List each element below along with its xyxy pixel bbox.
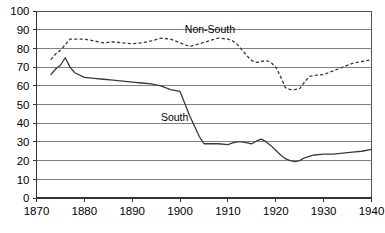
- x-tick-label-1900: 1900: [167, 205, 193, 217]
- y-tick-label-100: 100: [10, 5, 29, 17]
- y-tick-label-40: 40: [17, 117, 30, 129]
- y-tick-label-80: 80: [17, 43, 30, 55]
- y-tick-label-70: 70: [17, 61, 30, 73]
- annotation-non-south: Non-South: [185, 23, 235, 35]
- y-tick-label-10: 10: [17, 174, 30, 186]
- x-tick-label-1890: 1890: [119, 205, 145, 217]
- annotation-south: South: [161, 111, 189, 123]
- x-tick-label-1920: 1920: [263, 205, 289, 217]
- data-series: [51, 38, 372, 161]
- y-tick-label-50: 50: [17, 99, 30, 111]
- x-axis-tick-labels: 18701880189019001910192019301940: [24, 198, 385, 217]
- y-tick-label-90: 90: [17, 24, 30, 36]
- x-tick-label-1940: 1940: [359, 205, 385, 217]
- chart-container: 0102030405060708090100 18701880189019001…: [0, 0, 385, 233]
- y-tick-label-20: 20: [17, 155, 30, 167]
- line-chart: 0102030405060708090100 18701880189019001…: [0, 0, 385, 233]
- x-tick-label-1910: 1910: [215, 205, 241, 217]
- y-tick-label-60: 60: [17, 80, 30, 92]
- y-tick-label-0: 0: [23, 192, 29, 204]
- x-tick-label-1880: 1880: [72, 205, 98, 217]
- series-line-south: [51, 58, 372, 162]
- series-line-non-south: [51, 38, 372, 89]
- x-tick-label-1930: 1930: [311, 205, 337, 217]
- y-axis-tick-labels: 0102030405060708090100: [10, 5, 36, 204]
- y-tick-label-30: 30: [17, 136, 30, 148]
- x-tick-label-1870: 1870: [24, 205, 50, 217]
